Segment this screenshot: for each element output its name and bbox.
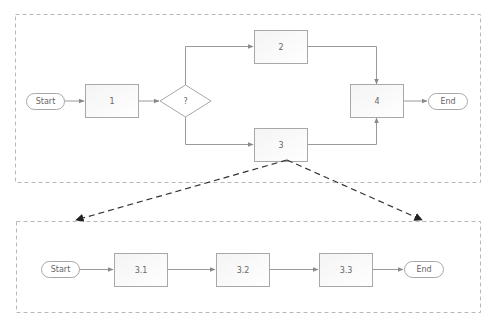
step-1-label: 1 [109,97,114,106]
process-step-3[interactable]: 3 [255,129,308,162]
sub-end-label: End [416,265,431,274]
connector-3-to-4 [307,118,377,145]
sub-end-terminal[interactable]: End [405,262,444,278]
drilldown-arrow-right [287,160,422,220]
process-step-3-2[interactable]: 3.2 [217,254,270,287]
process-step-3-3[interactable]: 3.3 [320,254,373,287]
process-step-1[interactable]: 1 [86,85,139,118]
flowchart-canvas: Start 1 ? 2 3 4 End Start 3.1 [0,0,496,330]
step-3-2-label: 3.2 [237,266,250,275]
start-label: Start [36,97,56,106]
connector-decision-to-2 [186,47,254,86]
decision-label: ? [183,97,187,106]
step-3-3-label: 3.3 [340,266,353,275]
decision-node[interactable]: ? [160,85,211,117]
connector-2-to-4 [307,47,377,85]
end-terminal[interactable]: End [429,94,468,110]
step-2-label: 2 [278,43,283,52]
connector-decision-to-3 [186,117,254,145]
process-step-4[interactable]: 4 [351,85,404,118]
sub-start-terminal[interactable]: Start [42,262,80,278]
process-step-3-1[interactable]: 3.1 [115,254,168,287]
step-3-label: 3 [278,141,283,150]
sub-start-label: Start [51,265,71,274]
process-step-2[interactable]: 2 [255,31,308,64]
step-3-1-label: 3.1 [135,266,148,275]
end-label: End [440,97,455,106]
step-4-label: 4 [374,97,379,106]
start-terminal[interactable]: Start [27,94,65,110]
drilldown-arrow-left [76,160,287,220]
